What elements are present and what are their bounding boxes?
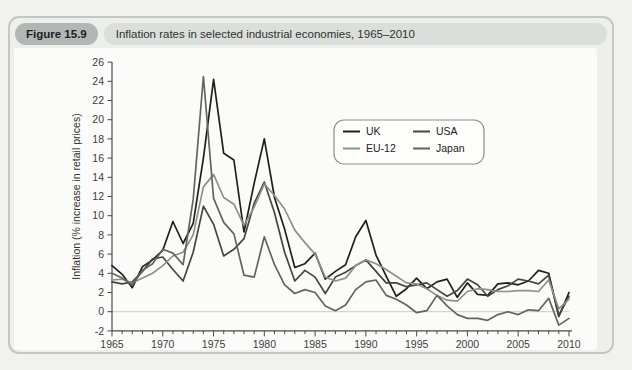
x-tick-label: 1970	[151, 338, 175, 350]
legend-label-japan: Japan	[436, 142, 465, 154]
y-tick-label: 8	[98, 229, 104, 241]
y-axis-title: Inflation (% increase in retail prices)	[70, 113, 82, 279]
y-tick-label: 12	[92, 190, 104, 202]
legend-label-usa: USA	[436, 125, 458, 137]
x-tick-label: 1990	[354, 338, 378, 350]
y-tick-label: 26	[92, 56, 104, 68]
y-tick-label: 0	[98, 305, 104, 317]
legend-label-uk: UK	[366, 125, 381, 137]
y-tick-label: 2	[98, 286, 104, 298]
figure-box: Figure 15.9 Inflation rates in selected …	[8, 16, 614, 354]
x-tick-label: 1995	[405, 338, 429, 350]
x-tick-label: 2010	[557, 338, 581, 350]
inflation-chart-svg: -202468101214161820222426196519701975198…	[14, 48, 597, 350]
y-tick-label: 16	[92, 152, 104, 164]
y-tick-label: 14	[92, 171, 104, 183]
x-tick-label: 1985	[303, 338, 327, 350]
series-line-uk	[112, 79, 569, 316]
y-tick-label: 6	[98, 248, 104, 260]
y-tick-label: 20	[92, 113, 104, 125]
y-tick-label: 4	[98, 267, 104, 279]
y-tick-label: 10	[92, 209, 104, 221]
x-tick-label: 1980	[253, 338, 277, 350]
x-tick-label: 1975	[202, 338, 226, 350]
y-tick-label: 22	[92, 94, 104, 106]
x-tick-label: 1965	[100, 338, 124, 350]
figure-number-badge: Figure 15.9	[15, 23, 98, 45]
legend-label-eu-12: EU-12	[366, 142, 396, 154]
y-tick-label: 18	[92, 133, 104, 145]
figure-title: Inflation rates in selected industrial e…	[104, 23, 607, 45]
figure-header: Figure 15.9 Inflation rates in selected …	[15, 23, 607, 45]
y-tick-label: -2	[95, 325, 104, 337]
chart-panel: -202468101214161820222426196519701975198…	[14, 48, 597, 350]
y-tick-label: 24	[92, 75, 104, 87]
x-tick-label: 2005	[507, 338, 531, 350]
x-tick-label: 2000	[456, 338, 480, 350]
series-line-usa	[112, 182, 569, 315]
